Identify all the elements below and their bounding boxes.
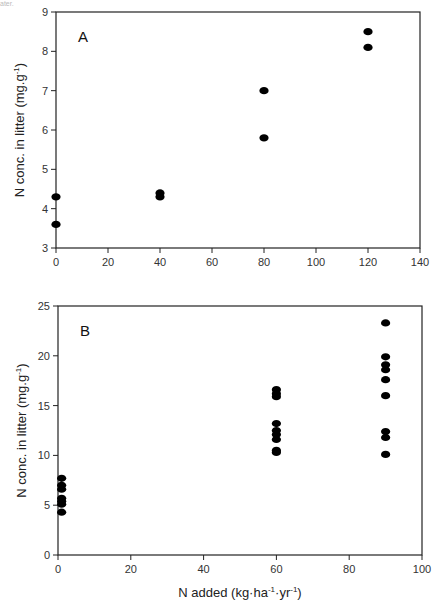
data-point — [57, 501, 66, 508]
data-point — [259, 87, 268, 94]
y-tick-label: 5 — [44, 499, 50, 511]
data-point — [363, 28, 372, 35]
y-axis-title: N conc. in litter (mg.g-1) — [14, 363, 29, 497]
data-point — [381, 392, 390, 399]
data-point — [381, 434, 390, 441]
figure-canvas: 3456789020406080100120140AN conc. in lit… — [0, 0, 442, 607]
y-tick-label: 10 — [38, 449, 50, 461]
chart-panel-a: 3456789020406080100120140AN conc. in lit… — [12, 6, 429, 268]
x-axis-title: N added (kg·ha-1·yr-1) — [178, 585, 301, 600]
data-point — [381, 353, 390, 360]
y-tick-label: 15 — [38, 400, 50, 412]
x-tick-label: 100 — [413, 563, 431, 575]
x-tick-label: 80 — [258, 256, 270, 268]
data-point — [272, 420, 281, 427]
data-point — [381, 366, 390, 373]
x-tick-label: 40 — [154, 256, 166, 268]
x-tick-label: 120 — [359, 256, 377, 268]
panel-label: A — [78, 28, 88, 45]
data-point — [57, 486, 66, 493]
y-tick-label: 0 — [44, 549, 50, 561]
y-axis-title: N conc. in litter (mg.g-1) — [12, 63, 27, 197]
y-tick-label: 5 — [42, 163, 48, 175]
x-tick-label: 0 — [55, 563, 61, 575]
data-point — [51, 193, 60, 200]
x-tick-label: 20 — [125, 563, 137, 575]
x-tick-label: 60 — [206, 256, 218, 268]
y-tick-label: 7 — [42, 85, 48, 97]
data-point — [272, 449, 281, 456]
data-point — [381, 451, 390, 458]
data-point — [272, 393, 281, 400]
x-tick-label: 60 — [270, 563, 282, 575]
data-point — [51, 221, 60, 228]
y-tick-label: 3 — [42, 242, 48, 254]
chart-panel-b: 0510152025020406080100BN conc. in litter… — [14, 300, 431, 600]
data-point — [259, 134, 268, 141]
data-point — [363, 44, 372, 51]
panel-label: B — [80, 322, 90, 339]
y-tick-label: 20 — [38, 350, 50, 362]
x-tick-label: 140 — [411, 256, 429, 268]
data-point — [381, 319, 390, 326]
y-tick-label: 9 — [42, 6, 48, 18]
y-tick-label: 4 — [42, 203, 48, 215]
data-point — [155, 193, 164, 200]
data-point — [57, 509, 66, 516]
x-tick-label: 20 — [102, 256, 114, 268]
data-point — [381, 376, 390, 383]
x-tick-label: 100 — [307, 256, 325, 268]
x-tick-label: 40 — [197, 563, 209, 575]
x-tick-label: 0 — [53, 256, 59, 268]
y-tick-label: 25 — [38, 300, 50, 312]
plot-frame — [58, 306, 422, 555]
data-point — [272, 436, 281, 443]
x-tick-label: 80 — [343, 563, 355, 575]
y-tick-label: 6 — [42, 124, 48, 136]
y-tick-label: 8 — [42, 45, 48, 57]
data-point — [57, 475, 66, 482]
